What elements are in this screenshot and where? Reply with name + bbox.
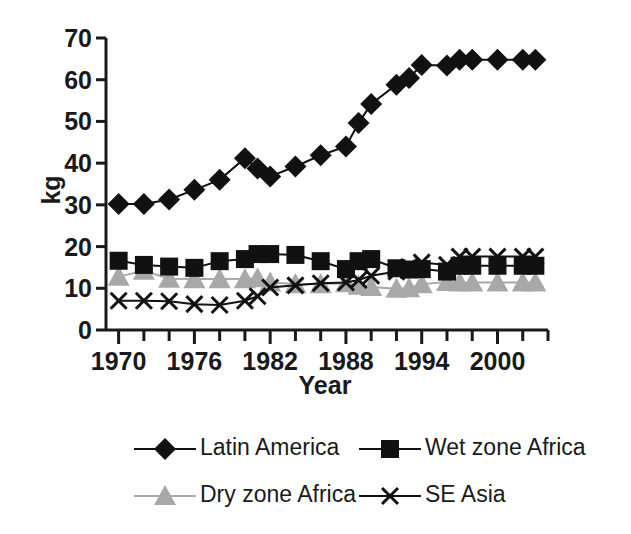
legend-label: Wet zone Africa: [425, 434, 586, 460]
y-axis-title: kg: [37, 175, 65, 204]
legend-label: Dry zone Africa: [200, 481, 356, 507]
data-point-square: [413, 260, 431, 278]
chart-page: 010203040506070 197019761982198819942000…: [0, 0, 631, 534]
x-tick-label: 1994: [394, 347, 450, 375]
data-point-square: [261, 245, 279, 263]
legend-label: Latin America: [200, 434, 340, 460]
y-tick-label: 30: [64, 191, 92, 219]
y-tick-label: 0: [78, 316, 92, 344]
data-point-square: [362, 250, 380, 268]
y-tick-label: 60: [64, 66, 92, 94]
data-point-square: [286, 246, 304, 264]
data-point-square: [526, 257, 544, 275]
line-chart: 010203040506070 197019761982198819942000…: [0, 0, 631, 534]
data-point-square: [488, 257, 506, 275]
data-point-square: [211, 252, 229, 270]
x-tick-label: 1976: [167, 347, 223, 375]
x-tick-label: 1970: [91, 347, 147, 375]
x-axis-title: Year: [299, 371, 352, 399]
x-tick-label: 1982: [242, 347, 298, 375]
data-point-square: [381, 440, 399, 458]
y-tick-label: 50: [64, 107, 92, 135]
data-point-square: [135, 256, 153, 274]
data-point-square: [185, 259, 203, 277]
x-tick-label: 2000: [470, 347, 526, 375]
y-tick-label: 10: [64, 274, 92, 302]
data-point-square: [160, 258, 178, 276]
y-tick-label: 20: [64, 233, 92, 261]
y-tick-label: 40: [64, 149, 92, 177]
data-point-square: [312, 252, 330, 270]
data-point-square: [463, 257, 481, 275]
data-point-square: [110, 252, 128, 270]
legend-label: SE Asia: [425, 481, 506, 507]
y-tick-label: 70: [64, 24, 92, 52]
